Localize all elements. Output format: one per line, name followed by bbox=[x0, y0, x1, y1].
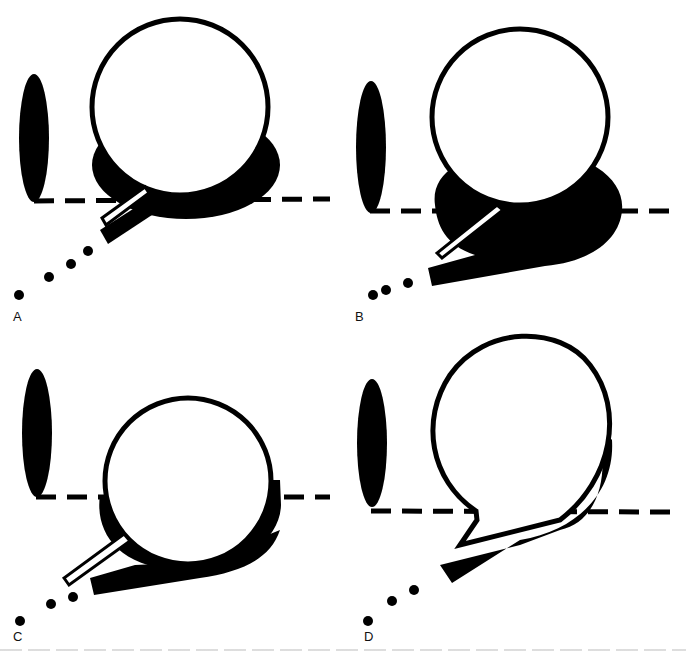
lens-ellipse bbox=[356, 81, 386, 213]
lens-ellipse bbox=[22, 369, 52, 497]
figure-canvas: A B C bbox=[0, 0, 686, 653]
panel-label-c: C bbox=[13, 629, 22, 644]
trail-dot bbox=[66, 259, 76, 269]
lens-ellipse bbox=[357, 379, 387, 507]
trail-dot bbox=[368, 290, 378, 300]
panel-label-d: D bbox=[364, 629, 373, 644]
trail-dot bbox=[363, 616, 373, 626]
trail-dot bbox=[381, 285, 391, 295]
trail-dot bbox=[46, 599, 56, 609]
trail-dot bbox=[14, 290, 24, 300]
cropped-caption-strip bbox=[0, 646, 686, 653]
lens-ellipse bbox=[19, 74, 49, 202]
panel-c: C bbox=[13, 369, 330, 644]
trail-dot bbox=[387, 596, 397, 606]
bubble-circle bbox=[432, 29, 608, 205]
panel-a: A bbox=[13, 19, 330, 324]
panel-b: B bbox=[355, 29, 672, 324]
trail-dot bbox=[15, 616, 25, 626]
trail-dot bbox=[83, 246, 93, 256]
panel-d: D bbox=[357, 336, 672, 644]
bubble-circle bbox=[92, 19, 268, 195]
trail-dot bbox=[68, 592, 78, 602]
caption-remnant bbox=[0, 649, 686, 651]
trail-dot bbox=[44, 272, 54, 282]
panel-label-a: A bbox=[13, 309, 22, 324]
panel-label-b: B bbox=[355, 309, 364, 324]
trail-dot bbox=[409, 585, 419, 595]
trail-dot bbox=[403, 278, 413, 288]
